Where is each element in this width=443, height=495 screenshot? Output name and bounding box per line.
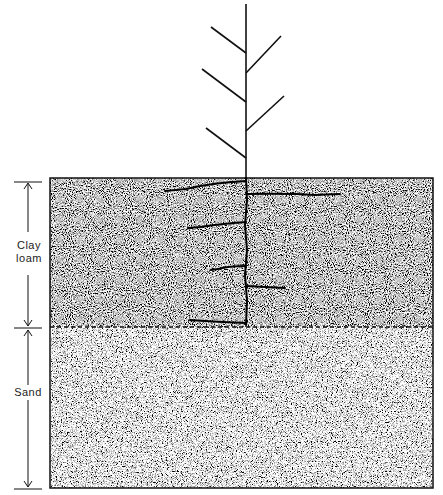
plant-shoot bbox=[202, 4, 284, 178]
soil-profile-diagram bbox=[0, 0, 443, 495]
clay-loam-label-line2: loam bbox=[14, 252, 44, 265]
clay-loam-label-line1: Clay bbox=[14, 239, 44, 252]
sand-layer bbox=[50, 327, 433, 488]
clay-loam-layer bbox=[50, 178, 433, 327]
sand-label: Sand bbox=[12, 386, 44, 399]
sand-dimension bbox=[14, 330, 42, 489]
clay-loam-label: Clay loam bbox=[14, 239, 44, 265]
